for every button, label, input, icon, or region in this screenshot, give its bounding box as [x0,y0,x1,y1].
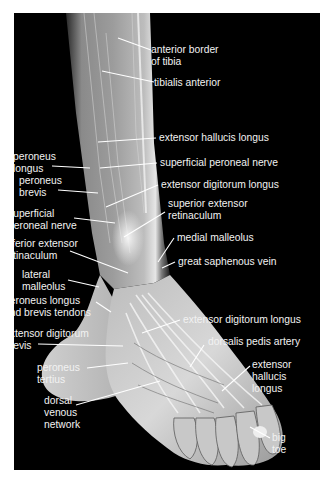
label-anterior-border-of-tibia: anterior border of tibia [151,44,219,68]
label-peroneus-longus-and-brevis-tendons: peroneus longus and brevis tendons [14,295,91,319]
leader-line-lateral-malleolus [68,280,99,287]
label-extensor-hallucis-longus-foot: extensor hallucis longus [252,359,292,396]
anatomy-figure: anterior border of tibia tibialis anteri… [14,13,320,470]
label-extensor-hallucis-longus-leg: extensor hallucis longus [159,132,269,144]
label-peroneus-tertius: peroneus tertius [37,362,80,386]
label-tibialis-anterior: tibialis anterior [154,77,220,89]
label-great-saphenous-vein: great saphenous vein [178,256,276,268]
label-inferior-extensor-retinaculum: inferior extensor retinaculum [14,238,78,262]
label-extensor-digitorum-longus-foot: extensor digitorum longus [183,314,301,326]
label-lateral-malleolus: lateral malleolus [22,269,66,293]
label-dorsalis-pedis-artery: dorsalis pedis artery [208,336,300,348]
label-peroneus-brevis: peroneus brevis [19,175,62,199]
label-superficial-peroneal-nerve-upper: superficial peroneal nerve [160,157,278,169]
label-big-toe: big toe [272,432,286,456]
label-extensor-digitorum-longus-leg: extensor digitorum longus [161,179,279,191]
label-superior-extensor-retinaculum: superior extensor retinaculum [168,198,248,222]
label-peroneus-longus: peroneus longus [14,151,56,175]
label-dorsal-venous-network: dorsal venous network [44,395,80,432]
label-extensor-digitorum-brevis: extensor digitorum brevis [14,328,89,352]
label-medial-malleolus: medial malleolus [177,232,254,244]
label-superficial-peroneal-nerve-lower: superficial peroneal nerve [14,208,77,232]
